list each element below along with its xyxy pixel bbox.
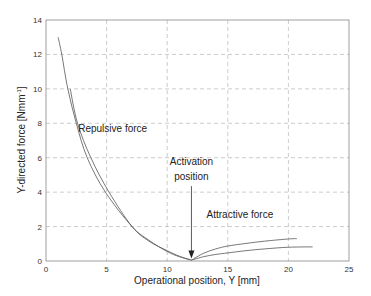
activation-arrow <box>188 186 194 258</box>
series-line-2 <box>191 239 296 261</box>
x-tick-label: 5 <box>104 265 109 274</box>
series-line-3 <box>191 247 312 260</box>
x-axis-label: Operational position, Y [mm] <box>134 275 260 286</box>
annotation-label: Activation <box>170 156 213 167</box>
y-tick-label: 8 <box>38 119 43 128</box>
y-tick-label: 12 <box>33 50 42 59</box>
annotation-label: Repulsive force <box>78 123 147 134</box>
annotations: Repulsive forceActivationpositionAttract… <box>78 123 273 220</box>
x-tick-label: 10 <box>163 265 172 274</box>
y-axis-label: Y-directed force [Nmm-1] <box>16 86 27 193</box>
x-tick-label: 20 <box>284 265 293 274</box>
force-position-chart: 0510152025 02468101214 Repulsive forceAc… <box>0 0 371 296</box>
x-tick-label: 25 <box>345 265 354 274</box>
y-tick-label: 0 <box>38 257 43 266</box>
x-tick-label: 15 <box>223 265 232 274</box>
x-axis-ticks: 0510152025 <box>44 265 354 274</box>
y-tick-label: 10 <box>33 85 42 94</box>
x-tick-label: 0 <box>44 265 49 274</box>
grid-lines <box>46 20 349 261</box>
arrow-head-icon <box>188 250 194 258</box>
y-tick-label: 6 <box>38 154 43 163</box>
annotation-label: position <box>174 171 208 182</box>
y-tick-label: 14 <box>33 16 42 25</box>
axes-frame <box>46 20 349 261</box>
y-tick-label: 2 <box>38 223 43 232</box>
y-axis-ticks: 02468101214 <box>33 16 42 266</box>
annotation-label: Attractive force <box>207 209 274 220</box>
y-tick-label: 4 <box>38 188 43 197</box>
